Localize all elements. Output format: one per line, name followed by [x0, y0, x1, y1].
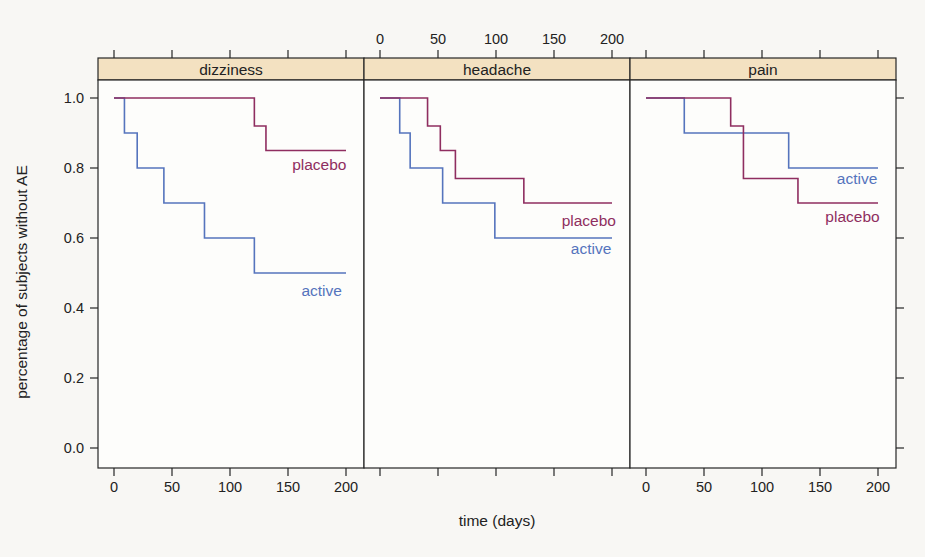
series-label-active: active [571, 240, 612, 257]
panel-dizziness: dizziness0501001502000.00.20.40.60.81.0a… [64, 50, 364, 495]
strip-label-dizziness: dizziness [199, 61, 263, 78]
y-tick-label: 1.0 [64, 90, 84, 106]
series-label-active: active [837, 170, 878, 187]
x-tick-label-bottom: 200 [866, 479, 890, 495]
x-axis-title: time (days) [459, 512, 536, 529]
y-axis-title: percentage of subjects without AE [13, 165, 30, 399]
x-tick-label-top: 150 [542, 31, 566, 47]
strip-label-pain: pain [748, 61, 777, 78]
x-tick-label-bottom: 150 [808, 479, 832, 495]
x-tick-label-bottom: 150 [276, 479, 300, 495]
panel-pain: pain050100150200activeplacebo [630, 50, 904, 495]
x-tick-label-top: 200 [600, 31, 624, 47]
x-tick-label-bottom: 50 [696, 479, 712, 495]
series-label-placebo: placebo [562, 212, 616, 229]
y-tick-label: 0.0 [64, 440, 84, 456]
panels-group: dizziness0501001502000.00.20.40.60.81.0a… [64, 31, 904, 495]
x-tick-label-top: 0 [376, 31, 384, 47]
x-tick-label-bottom: 200 [334, 479, 358, 495]
y-tick-label: 0.8 [64, 160, 84, 176]
panel-headache: headache050100150200activeplacebo [364, 31, 630, 476]
x-tick-label-bottom: 100 [750, 479, 774, 495]
y-tick-label: 0.6 [64, 230, 84, 246]
panel-frame [364, 80, 630, 468]
y-tick-label: 0.2 [64, 370, 84, 386]
x-tick-label-bottom: 50 [164, 479, 180, 495]
strip-label-headache: headache [463, 61, 531, 78]
x-tick-label-bottom: 100 [218, 479, 242, 495]
figure-page: dizziness0501001502000.00.20.40.60.81.0a… [0, 0, 925, 557]
series-label-placebo: placebo [292, 156, 346, 173]
series-label-active: active [301, 282, 342, 299]
y-tick-label: 0.4 [64, 300, 84, 316]
series-label-placebo: placebo [825, 208, 879, 225]
panel-frame [630, 80, 896, 468]
km-trellis-plot: dizziness0501001502000.00.20.40.60.81.0a… [0, 0, 925, 557]
x-tick-label-top: 50 [430, 31, 446, 47]
x-tick-label-top: 100 [484, 31, 508, 47]
x-tick-label-bottom: 0 [110, 479, 118, 495]
x-tick-label-bottom: 0 [642, 479, 650, 495]
